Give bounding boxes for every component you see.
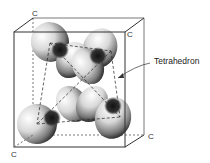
cube-diagram <box>0 0 210 163</box>
corner-label-top-front-right: C <box>127 31 133 39</box>
corner-label-bottom-back-right: C <box>148 133 154 141</box>
diagram: C C C C Tetrahedron <box>0 0 210 163</box>
tetrahedron-callout-arrow <box>118 63 150 78</box>
orbital-lobes <box>11 17 135 150</box>
tetrahedron-label: Tetrahedron <box>154 57 199 66</box>
corner-label-top-back-left: C <box>32 10 38 18</box>
corner-label-bottom-front-left: C <box>11 151 17 159</box>
